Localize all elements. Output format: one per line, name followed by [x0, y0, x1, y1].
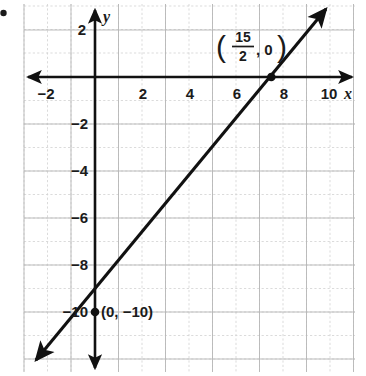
point-marker-x-intercept: [267, 73, 276, 82]
label-open-paren: (: [216, 30, 226, 63]
x-axis-label: x: [343, 85, 352, 102]
x-tick-label-10: 10: [321, 85, 338, 102]
fraction-tail: , 0: [256, 41, 273, 58]
x-tick-label-6: 6: [233, 85, 241, 102]
y-tick-label-2: 2: [78, 21, 86, 38]
y-tick-label-neg10: −10: [63, 303, 88, 320]
figure-background: [0, 0, 366, 376]
coordinate-plane-figure: −2 2 4 6 8 10 2 −2 −4 −6 −8 −10 x y ( 15…: [0, 0, 366, 376]
point-marker-y-intercept: [91, 308, 100, 317]
label-close-paren: ): [277, 30, 287, 63]
fraction-numerator: 15: [235, 29, 251, 45]
item-bullet-icon: [0, 10, 6, 16]
y-tick-label-neg6: −6: [71, 209, 88, 226]
y-axis-label: y: [101, 8, 111, 26]
y-tick-label-neg4: −4: [71, 162, 89, 179]
y-intercept-label: (0, −10): [101, 303, 153, 320]
y-tick-label-neg2: −2: [71, 115, 88, 132]
x-tick-label-neg2: −2: [37, 85, 54, 102]
x-tick-label-8: 8: [280, 85, 288, 102]
x-tick-label-4: 4: [186, 85, 195, 102]
y-tick-label-neg8: −8: [71, 256, 88, 273]
x-tick-label-2: 2: [139, 85, 147, 102]
fraction-denominator: 2: [239, 48, 247, 64]
